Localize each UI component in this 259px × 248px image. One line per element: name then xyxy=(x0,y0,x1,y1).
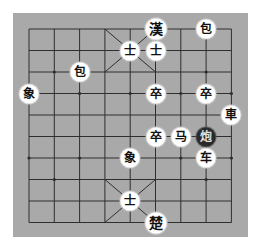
piece-black-elephant[interactable]: 象 xyxy=(20,84,39,103)
piece-black-advisor[interactable]: 士 xyxy=(146,41,165,60)
piece-red-cannon[interactable]: 炮 xyxy=(197,127,216,146)
piece-black-cannon[interactable]: 包 xyxy=(70,63,89,82)
piece-red-advisor[interactable]: 士 xyxy=(121,192,140,211)
piece-black-advisor[interactable]: 士 xyxy=(121,41,140,60)
piece-black-soldier[interactable]: 卒 xyxy=(197,84,216,103)
piece-red-horse[interactable]: 马 xyxy=(171,127,190,146)
piece-black-soldier[interactable]: 卒 xyxy=(146,127,165,146)
piece-black-general[interactable]: 漢 xyxy=(145,19,166,40)
board-grid xyxy=(0,0,259,248)
piece-red-chariot[interactable]: 车 xyxy=(197,149,216,168)
piece-black-soldier[interactable]: 卒 xyxy=(146,84,165,103)
piece-black-cannon[interactable]: 包 xyxy=(197,20,216,39)
piece-black-chariot[interactable]: 車 xyxy=(222,106,241,125)
piece-red-general[interactable]: 楚 xyxy=(145,212,166,233)
piece-red-elephant[interactable]: 象 xyxy=(121,149,140,168)
